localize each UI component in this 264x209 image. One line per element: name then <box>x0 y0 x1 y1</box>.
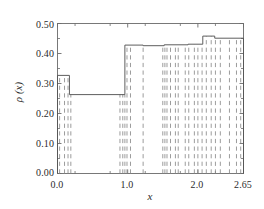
density-histogram-chart: 0.50 0.40 0.30 0.20 0.10 0.00 0.0 1.0 2.… <box>0 0 264 209</box>
plot-area <box>0 0 264 209</box>
event-lines <box>60 36 241 173</box>
